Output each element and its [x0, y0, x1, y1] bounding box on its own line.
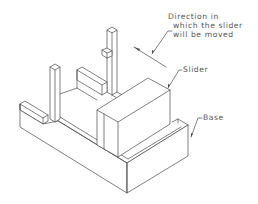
- direction-arrow: [134, 31, 172, 67]
- front-left-post: [50, 64, 60, 122]
- base-leader: [191, 118, 202, 137]
- direction-label-line-3: will be moved: [173, 31, 243, 40]
- slider-leader: [168, 70, 182, 88]
- diagram-canvas: Direction in which the slider will be mo…: [0, 0, 258, 204]
- direction-label: Direction in which the slider will be mo…: [168, 13, 243, 39]
- base-label: Base: [203, 114, 224, 123]
- slider-label: Slider: [183, 66, 208, 75]
